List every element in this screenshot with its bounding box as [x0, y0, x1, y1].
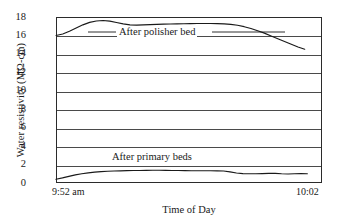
chart-figure: Water resistivity (MΩ-cm) 18 16 14 12 10… — [0, 0, 354, 224]
series-annotation-after-polisher-bed: After polisher bed — [117, 26, 197, 37]
x-axis-title: Time of Day — [56, 204, 322, 215]
x-tick-label-end: 10:02 — [296, 186, 319, 197]
series-annotation-after-primary-beds: After primary beds — [110, 151, 194, 162]
x-tick-label-start: 9:52 am — [52, 186, 85, 197]
